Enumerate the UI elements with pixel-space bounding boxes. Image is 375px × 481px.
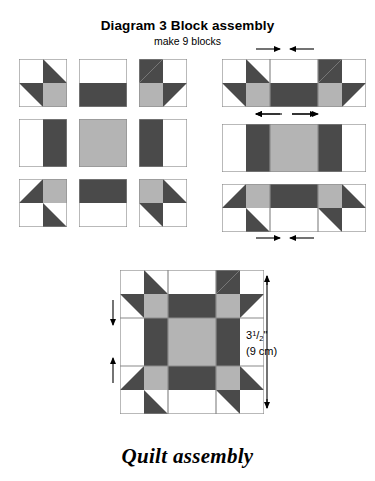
side-unit-top bbox=[79, 59, 127, 107]
corner-unit-top-right bbox=[139, 59, 187, 107]
corner-unit-bottom-left bbox=[19, 179, 67, 227]
corner-unit-top-left bbox=[19, 59, 67, 107]
dimension-unit: " bbox=[264, 329, 268, 341]
row-strip-middle bbox=[222, 124, 366, 172]
section-heading-quilt-assembly: Quilt assembly bbox=[0, 444, 375, 469]
center-unit bbox=[79, 119, 127, 167]
diagram-page: Diagram 3 Block assembly make 9 blocks bbox=[0, 0, 375, 481]
row-strip-bottom bbox=[222, 184, 366, 232]
page-subtitle: make 9 blocks bbox=[0, 35, 375, 47]
side-unit-right bbox=[139, 119, 187, 167]
side-unit-bottom bbox=[79, 179, 127, 227]
finished-block bbox=[120, 270, 264, 414]
row-strip-top bbox=[222, 59, 366, 107]
corner-unit-bottom-right bbox=[139, 179, 187, 227]
dimension-metric: (9 cm) bbox=[246, 345, 277, 358]
page-title: Diagram 3 Block assembly bbox=[0, 18, 375, 33]
side-unit-left bbox=[19, 119, 67, 167]
block-dimension-label: 31/2" (9 cm) bbox=[246, 327, 277, 358]
